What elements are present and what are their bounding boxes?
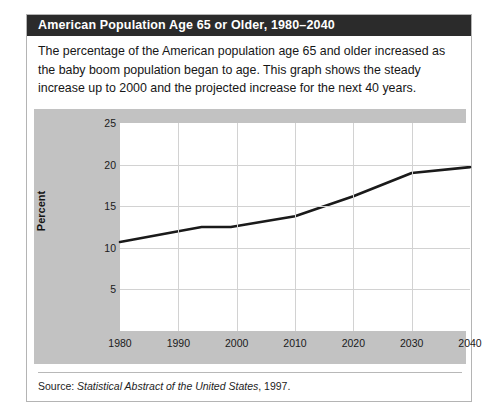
x-axis-ticks: 1980199020002010202020302040 xyxy=(120,337,470,353)
x-tick-label: 2000 xyxy=(213,337,261,349)
y-tick-label: 20 xyxy=(86,160,116,170)
chart-panel: Percent 510152025 1980199020002010202020… xyxy=(34,109,466,364)
x-tick-label: 1980 xyxy=(96,337,144,349)
gridline-vertical xyxy=(237,123,238,331)
plot-area xyxy=(120,123,470,331)
source-prefix: Source: xyxy=(38,380,77,392)
y-tick-label: 10 xyxy=(86,243,116,253)
figure-card: American Population Age 65 or Older, 198… xyxy=(26,14,472,402)
figure-description: The percentage of the American populatio… xyxy=(38,42,452,98)
gridline-vertical xyxy=(412,123,413,331)
gridline-vertical xyxy=(353,123,354,331)
gridline-vertical xyxy=(295,123,296,331)
figure-source: Source: Statistical Abstract of the Unit… xyxy=(38,380,290,392)
figure-title-bar: American Population Age 65 or Older, 198… xyxy=(27,15,471,36)
y-tick-label: 15 xyxy=(86,201,116,211)
figure-title: American Population Age 65 or Older, 198… xyxy=(38,18,335,32)
source-suffix: , 1997. xyxy=(258,380,290,392)
x-tick-label: 2010 xyxy=(271,337,319,349)
gridline-vertical xyxy=(178,123,179,331)
figure-page: American Population Age 65 or Older, 198… xyxy=(0,0,499,418)
source-divider xyxy=(38,372,462,373)
y-tick-label: 25 xyxy=(86,118,116,128)
y-axis-ticks: 510152025 xyxy=(74,123,116,331)
source-publication-title: Statistical Abstract of the United State… xyxy=(77,380,258,392)
x-tick-label: 2030 xyxy=(388,337,436,349)
x-tick-label: 1990 xyxy=(154,337,202,349)
y-axis-title: Percent xyxy=(35,191,47,231)
y-tick-label: 5 xyxy=(86,284,116,294)
x-tick-label: 2020 xyxy=(329,337,377,349)
x-tick-label: 2040 xyxy=(446,337,494,349)
